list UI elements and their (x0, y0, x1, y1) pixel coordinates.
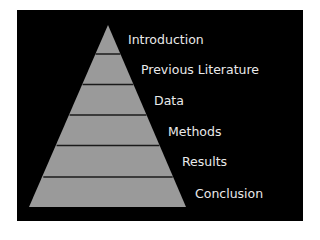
tier-label-introduction: Introduction (128, 33, 204, 47)
tier-label-conclusion: Conclusion (195, 187, 263, 201)
pyramid-shape (29, 25, 186, 207)
tier-label-previous-literature: Previous Literature (141, 63, 259, 77)
tier-label-data: Data (154, 94, 184, 108)
tier-label-methods: Methods (168, 125, 221, 139)
tier-label-results: Results (182, 155, 227, 169)
